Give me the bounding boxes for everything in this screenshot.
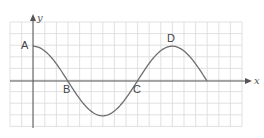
x-axis-label: x [254, 75, 260, 86]
x-axis-arrow-icon [245, 78, 252, 84]
grid [10, 22, 242, 126]
point-label-c: C [133, 83, 141, 95]
point-label-b: B [63, 83, 70, 95]
sine-wave-diagram: x y A B C D [0, 0, 264, 138]
point-label-d: D [167, 32, 175, 44]
y-axis-arrow-icon [30, 14, 36, 21]
point-label-a: A [21, 39, 29, 51]
y-axis-label: y [36, 12, 43, 23]
